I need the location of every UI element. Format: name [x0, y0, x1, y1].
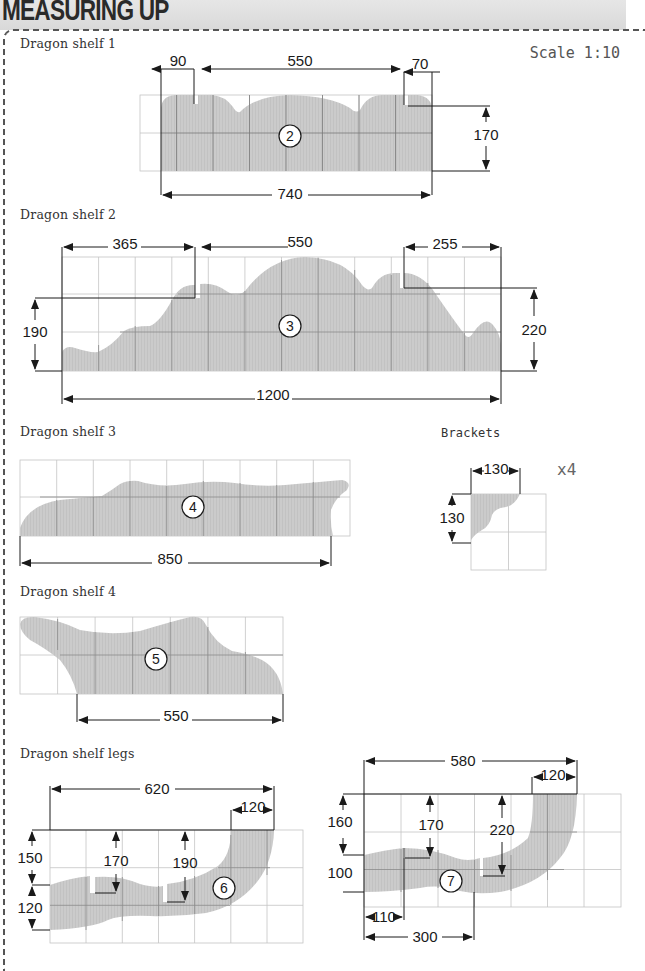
- shelf1-dim-740: 740: [277, 185, 302, 202]
- shelf1-dim-70: 70: [412, 55, 429, 72]
- brackets-drawing: 130 130: [439, 460, 546, 570]
- shelf1-dim-170: 170: [473, 126, 498, 143]
- shelf2-part-number: 3: [286, 318, 294, 334]
- shelf2-dim-190: 190: [22, 323, 47, 340]
- leg7-dim-110: 110: [372, 908, 396, 925]
- leg7-dim-220: 220: [489, 821, 514, 838]
- leg6-dim-left-120: 120: [17, 899, 42, 916]
- leg7-dim-580: 580: [450, 752, 475, 769]
- leg6-dim-620: 620: [144, 780, 169, 797]
- shelf4-dim-550: 550: [163, 707, 188, 724]
- shelf1-dim-550: 550: [287, 52, 312, 69]
- leg6-dim-top-120: 120: [240, 798, 265, 815]
- leg7-shape: [364, 794, 577, 893]
- shelf1-dim-90: 90: [170, 52, 187, 69]
- shelf1-drawing: 2 90 550 70 170 740: [140, 52, 499, 202]
- leg6-dim-150: 150: [17, 849, 42, 866]
- leg7-drawing: 7 580 120 160 100 170 220 110 300: [327, 752, 621, 945]
- leg7-dim-160: 160: [327, 813, 352, 830]
- leg7-dim-top-120: 120: [540, 766, 565, 783]
- shelf4-part-number: 5: [152, 651, 160, 667]
- shelf2-drawing: 3 365 550 255 190 220 1200: [22, 233, 546, 404]
- shelf2-dim-550: 550: [287, 233, 312, 250]
- leg6-dim-170: 170: [103, 852, 128, 869]
- shelf4-drawing: 5 550: [20, 617, 283, 724]
- shelf2-dim-220: 220: [521, 321, 546, 338]
- bracket-dim-height: 130: [439, 509, 464, 526]
- bracket-shape: [471, 494, 520, 540]
- shelf2-dim-1200: 1200: [256, 386, 289, 403]
- leg7-part-number: 7: [447, 873, 455, 889]
- shelf3-part-number: 4: [189, 499, 197, 515]
- leg6-dim-190: 190: [172, 854, 197, 871]
- leg7-dim-100: 100: [327, 864, 352, 881]
- shelf2-dim-255: 255: [432, 235, 457, 252]
- leg6-shape: [50, 830, 274, 930]
- leg7-dim-170: 170: [418, 816, 443, 833]
- shelf3-drawing: 4 850: [20, 460, 350, 567]
- bracket-dim-width: 130: [483, 460, 508, 477]
- leg7-dim-300: 300: [412, 928, 437, 945]
- leg6-part-number: 6: [220, 880, 228, 896]
- shelf3-dim-850: 850: [157, 550, 182, 567]
- shelf1-part-number: 2: [286, 128, 294, 144]
- shelf2-dim-365: 365: [112, 235, 137, 252]
- leg6-drawing: 6 620 120 150 120 170 190: [17, 780, 303, 943]
